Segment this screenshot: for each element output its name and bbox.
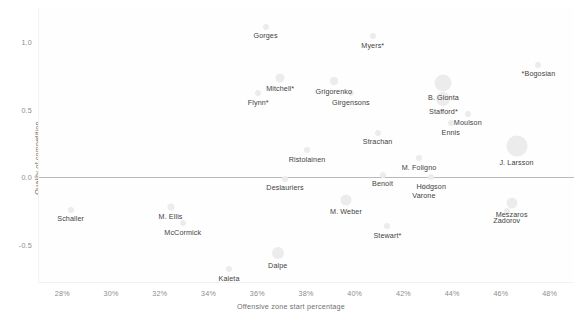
x-tick-label: 44%	[445, 289, 460, 298]
data-point-label: Stafford*	[429, 108, 458, 115]
data-point-label: Myers*	[361, 42, 384, 49]
data-point-label: J. Larsson	[499, 159, 533, 166]
data-point-bubble[interactable]	[276, 74, 285, 83]
data-point-bubble[interactable]	[370, 33, 376, 39]
data-point-label: Benoit	[372, 180, 393, 187]
data-point-bubble[interactable]	[448, 120, 454, 126]
data-point-label: Hodgson	[417, 183, 446, 190]
data-point-label: Varone	[412, 192, 435, 199]
y-tick-label: 0.5	[6, 105, 32, 114]
data-point-label: *Bogosian	[522, 70, 556, 77]
y-tick-mark	[34, 177, 38, 178]
data-point-bubble[interactable]	[340, 195, 351, 206]
data-point-bubble[interactable]	[380, 172, 386, 178]
data-point-label: Girgensons	[332, 99, 370, 106]
data-point-bubble[interactable]	[255, 90, 261, 96]
data-point-label: Grigorenko	[316, 88, 353, 95]
y-tick-label: 1.0	[6, 37, 32, 46]
data-point-bubble[interactable]	[384, 223, 390, 229]
data-point-bubble[interactable]	[330, 77, 338, 85]
data-point-bubble[interactable]	[535, 62, 541, 68]
zero-reference-line	[39, 177, 574, 178]
data-point-label: Schaller	[57, 215, 84, 222]
data-point-bubble[interactable]	[68, 207, 74, 213]
x-tick-label: 42%	[396, 289, 411, 298]
data-point-bubble[interactable]	[180, 220, 186, 226]
x-tick-label: 46%	[493, 289, 508, 298]
data-point-bubble[interactable]	[428, 174, 434, 180]
data-point-label: Zadorov	[493, 217, 520, 224]
data-point-bubble[interactable]	[226, 266, 232, 272]
data-point-label: Mitchell*	[266, 85, 294, 92]
x-tick-label: 40%	[347, 289, 362, 298]
data-point-bubble[interactable]	[167, 204, 174, 211]
data-point-bubble[interactable]	[506, 198, 517, 209]
bubble-chart: Quality of competition GorgesMyers**Bogo…	[0, 0, 582, 316]
data-point-label: Kaleta	[219, 275, 240, 282]
data-point-label: Ennis	[441, 129, 459, 136]
data-point-label: Flynn*	[248, 99, 269, 106]
data-point-bubble[interactable]	[465, 111, 471, 117]
data-point-label: B. Gionta	[428, 94, 459, 101]
data-point-label: M. Ellis	[159, 213, 183, 220]
data-point-bubble[interactable]	[375, 130, 381, 136]
plot-area: GorgesMyers**BogosianMitchell*Grigorenko…	[38, 8, 574, 283]
y-tick-label: -0.5	[6, 241, 32, 250]
y-tick-label: 0.0	[6, 173, 32, 182]
data-point-bubble[interactable]	[416, 155, 422, 161]
x-tick-label: 38%	[299, 289, 314, 298]
x-tick-label: 28%	[55, 289, 70, 298]
data-point-label: Moulson	[454, 119, 482, 126]
data-point-label: M. Weber	[330, 208, 362, 215]
x-tick-label: 30%	[104, 289, 119, 298]
x-tick-label: 34%	[201, 289, 216, 298]
data-point-label: Gorges	[253, 32, 277, 39]
x-axis-title: Offensive zone start percentage	[0, 302, 582, 311]
data-point-label: Stewart*	[373, 232, 401, 239]
data-point-bubble[interactable]	[263, 24, 269, 30]
data-point-bubble[interactable]	[506, 136, 527, 157]
x-tick-label: 48%	[542, 289, 557, 298]
data-point-label: McCormick	[164, 229, 201, 236]
x-tick-label: 36%	[250, 289, 265, 298]
data-point-bubble[interactable]	[304, 147, 310, 153]
data-point-bubble[interactable]	[282, 176, 288, 182]
x-tick-label: 32%	[152, 289, 167, 298]
data-point-bubble[interactable]	[435, 74, 452, 91]
data-point-bubble[interactable]	[272, 247, 284, 259]
data-point-label: Dalpe	[268, 262, 287, 269]
data-point-label: Strachan	[363, 138, 393, 145]
data-point-label: Deslauriers	[266, 184, 303, 191]
data-point-label: M. Foligno	[402, 164, 437, 171]
data-point-label: Ristolainen	[289, 156, 326, 163]
